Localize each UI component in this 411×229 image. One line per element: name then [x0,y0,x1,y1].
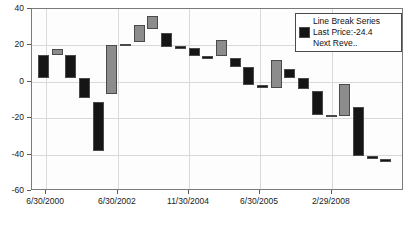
line-break-block-17 [257,85,268,88]
line-break-block-1 [38,55,49,79]
gridline-v-0 [46,9,47,189]
y-tick-label-20: 20 [15,39,24,49]
line-break-block-2 [52,49,63,55]
x-tick-mark-2 [188,190,189,194]
gridline-h--20 [32,118,402,119]
x-tick-label-2: 11/30/2004 [167,196,209,206]
line-break-block-21 [312,91,323,115]
legend-series-name: Line Break Series [313,16,380,27]
line-break-block-14 [216,40,227,56]
line-break-block-23 [339,84,350,117]
x-tick-label-3: 6/30/2005 [240,196,278,206]
line-break-block-22 [326,115,337,118]
line-break-block-12 [189,48,200,56]
line-break-block-16 [243,67,254,85]
line-break-block-11 [175,46,186,49]
line-break-block-18 [271,60,282,88]
line-break-block-9 [147,16,158,29]
line-break-block-19 [284,69,295,78]
gridline-v-3 [260,9,261,189]
gridline-v-1 [118,9,119,189]
x-tick-label-4: 2/29/2008 [312,196,350,206]
line-break-chart: 40200-20-40-60 6/30/20006/30/200211/30/2… [0,0,411,229]
line-break-block-25 [367,156,378,159]
line-break-block-6 [106,45,117,94]
line-break-block-4 [79,78,90,98]
gridline-v-2 [189,9,190,189]
y-tick-label--20: -20 [12,112,24,122]
gridline-h--40 [32,155,402,156]
legend-row: Line Break Series Last Price:-24.4 Next … [299,16,398,49]
legend-last-price: Last Price:-24.4 [313,27,380,38]
y-tick-label-0: 0 [19,76,24,86]
legend: Line Break Series Last Price:-24.4 Next … [295,13,402,52]
line-break-block-8 [134,25,145,41]
x-tick-mark-0 [45,190,46,194]
x-tick-label-1: 6/30/2002 [98,196,136,206]
x-tick-mark-1 [117,190,118,194]
y-tick-label-40: 40 [15,3,24,13]
legend-next-reversal: Next Reve.. [313,38,380,49]
y-tick-mark--60 [27,190,31,191]
legend-texts: Line Break Series Last Price:-24.4 Next … [313,16,380,49]
line-break-block-13 [202,56,213,59]
x-tick-label-0: 6/30/2000 [26,196,64,206]
line-break-block-20 [298,78,309,89]
line-break-block-24 [353,107,364,156]
line-break-block-10 [161,33,172,48]
line-break-block-7 [120,44,131,47]
line-break-block-15 [230,58,241,67]
line-break-block-5 [93,102,104,151]
x-tick-mark-4 [331,190,332,194]
y-tick-label--60: -60 [12,185,24,195]
legend-swatch-icon [299,27,310,38]
line-break-block-26 [380,159,391,162]
line-break-block-3 [65,55,76,79]
x-tick-mark-3 [259,190,260,194]
y-tick-label--40: -40 [12,149,24,159]
